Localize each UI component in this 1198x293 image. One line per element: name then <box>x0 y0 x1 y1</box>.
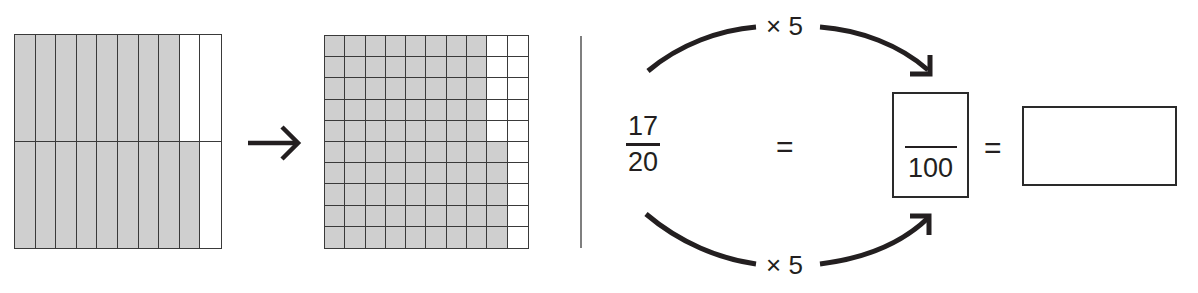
unshaded-cell <box>508 36 528 57</box>
shaded-cell <box>447 142 467 163</box>
right-arrow-icon <box>248 127 298 159</box>
shaded-cell <box>406 78 426 99</box>
shaded-cell <box>447 78 467 99</box>
shaded-cell <box>366 142 386 163</box>
shaded-cell <box>366 57 386 78</box>
shaded-cell <box>487 206 507 227</box>
shaded-cell <box>406 206 426 227</box>
unshaded-cell <box>508 121 528 142</box>
shaded-cell <box>325 184 345 205</box>
numerator-blank[interactable] <box>905 146 957 148</box>
shaded-cell <box>406 227 426 248</box>
shaded-cell <box>467 100 487 121</box>
shaded-cell <box>345 100 365 121</box>
shaded-cell <box>426 121 446 142</box>
shaded-cell <box>487 184 507 205</box>
shaded-cell <box>325 121 345 142</box>
unshaded-cell <box>487 36 507 57</box>
shaded-cell <box>467 142 487 163</box>
multiplier-label-top: × 5 <box>762 13 807 39</box>
unshaded-cell <box>508 78 528 99</box>
shaded-cell <box>386 142 406 163</box>
shaded-cell <box>345 142 365 163</box>
shaded-cell <box>345 163 365 184</box>
shaded-cell <box>345 227 365 248</box>
shaded-cell <box>467 36 487 57</box>
shaded-cell <box>386 78 406 99</box>
fraction-numerator: 17 <box>628 113 658 140</box>
shaded-cell <box>406 142 426 163</box>
shaded-cell <box>447 100 467 121</box>
shaded-cell <box>426 227 446 248</box>
shaded-cell <box>426 206 446 227</box>
shaded-cell <box>386 184 406 205</box>
shaded-cell <box>386 36 406 57</box>
shaded-cell <box>447 121 467 142</box>
shaded-cell <box>386 163 406 184</box>
shaded-cell <box>467 227 487 248</box>
unshaded-cell <box>508 227 528 248</box>
shaded-cell <box>366 100 386 121</box>
shaded-cell <box>325 100 345 121</box>
shaded-cell <box>345 184 365 205</box>
shaded-cell <box>406 57 426 78</box>
shaded-cell <box>325 227 345 248</box>
fraction-denominator: 20 <box>628 149 658 176</box>
unshaded-cell <box>508 184 528 205</box>
shaded-cell <box>406 163 426 184</box>
shaded-cell <box>325 142 345 163</box>
shaded-cell <box>467 121 487 142</box>
shaded-cell <box>386 227 406 248</box>
shaded-cell <box>487 227 507 248</box>
shaded-cell <box>426 36 446 57</box>
shaded-cell <box>487 163 507 184</box>
shaded-cell <box>325 36 345 57</box>
shaded-cell <box>467 163 487 184</box>
unshaded-cell <box>508 206 528 227</box>
shaded-cell <box>366 78 386 99</box>
shaded-cell <box>447 36 467 57</box>
shaded-cell <box>426 78 446 99</box>
shaded-cell <box>406 184 426 205</box>
unshaded-cell <box>487 121 507 142</box>
shaded-cell <box>406 121 426 142</box>
shaded-cell <box>406 100 426 121</box>
shaded-cell <box>447 57 467 78</box>
shaded-cell <box>325 206 345 227</box>
shaded-cell <box>467 57 487 78</box>
equals-sign: = <box>776 132 794 162</box>
shaded-cell <box>345 78 365 99</box>
shaded-cell <box>386 206 406 227</box>
shaded-cell <box>467 78 487 99</box>
shaded-cell <box>325 163 345 184</box>
shaded-cell <box>366 163 386 184</box>
equals-sign-2: = <box>984 133 1002 163</box>
shaded-cell <box>487 142 507 163</box>
unshaded-cell <box>508 57 528 78</box>
unshaded-cell <box>508 163 528 184</box>
shaded-cell <box>366 227 386 248</box>
answer-box[interactable] <box>1022 106 1177 186</box>
shaded-cell <box>447 206 467 227</box>
fraction-bar <box>626 143 660 146</box>
shaded-cell <box>426 163 446 184</box>
hundredths-fraction-box[interactable]: 100 <box>892 92 969 198</box>
unshaded-cell <box>487 57 507 78</box>
shaded-cell <box>386 100 406 121</box>
shaded-cell <box>386 121 406 142</box>
shaded-cell <box>467 206 487 227</box>
unshaded-cell <box>487 100 507 121</box>
shaded-cell <box>345 206 365 227</box>
shaded-cell <box>366 184 386 205</box>
shaded-cell <box>447 163 467 184</box>
shaded-cell <box>345 57 365 78</box>
shaded-cell <box>426 57 446 78</box>
grid-hundredths <box>324 35 529 249</box>
shaded-cell <box>447 184 467 205</box>
unshaded-cell <box>508 100 528 121</box>
shaded-cell <box>447 227 467 248</box>
shaded-cell <box>406 36 426 57</box>
diagram-lines-layer <box>0 0 1198 293</box>
shaded-cell <box>426 184 446 205</box>
shaded-cell <box>426 142 446 163</box>
